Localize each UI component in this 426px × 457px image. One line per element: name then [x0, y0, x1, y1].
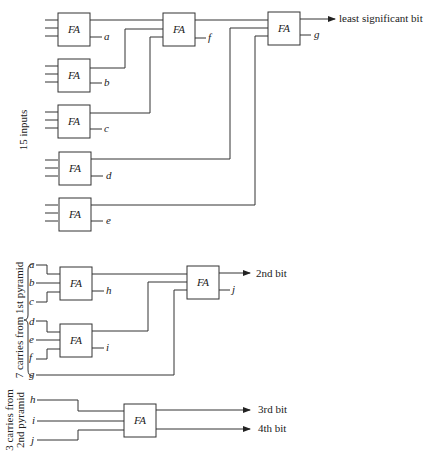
svg-text:e: e — [29, 333, 34, 345]
carry-e: e — [106, 214, 111, 226]
output-4th-bit: 4th bit — [258, 422, 286, 434]
fa-block-3: FA c — [45, 105, 109, 138]
carry-c: c — [104, 122, 109, 134]
side-label-15-inputs: 15 inputs — [17, 110, 29, 151]
full-adder-pyramid-diagram: 15 inputs FA a FA b FA — [0, 0, 426, 457]
svg-text:j: j — [230, 283, 235, 295]
svg-text:FA: FA — [68, 162, 81, 174]
svg-text:FA: FA — [67, 69, 80, 81]
svg-text:c: c — [29, 295, 34, 307]
svg-text:j: j — [29, 434, 34, 446]
svg-text:FA: FA — [277, 22, 290, 34]
fa-block-7: FA g — [268, 12, 320, 45]
svg-text:a: a — [29, 258, 35, 270]
svg-text:f: f — [29, 351, 34, 363]
output-lsb: least significant bit — [339, 12, 423, 24]
output-3rd-bit: 3rd bit — [258, 403, 287, 415]
section-2-pyramid: 7 carries from 1st pyramid a b c d e f g… — [13, 258, 287, 380]
carry-b: b — [104, 76, 110, 88]
svg-text:i: i — [106, 341, 109, 353]
svg-text:FA: FA — [133, 414, 146, 426]
svg-text:b: b — [29, 276, 35, 288]
carry-d: d — [106, 169, 112, 181]
carry-g: g — [314, 28, 320, 40]
section-3-adder: 3 carries from 2nd pyramid h i j FA 3rd … — [3, 389, 287, 451]
side-label-7-carries: 7 carries from 1st pyramid — [13, 261, 25, 378]
fa-block-6: FA f — [163, 13, 213, 46]
svg-text:d: d — [29, 315, 35, 327]
fa-block-5: FA e — [45, 198, 111, 231]
section-1-pyramid: 15 inputs FA a FA b FA — [17, 12, 423, 231]
fa-block-2: FA b — [45, 59, 110, 92]
svg-text:FA: FA — [67, 115, 80, 127]
svg-text:FA: FA — [172, 23, 185, 35]
fa-block-4: FA d — [45, 152, 112, 185]
svg-text:FA: FA — [196, 276, 209, 288]
svg-text:h: h — [30, 393, 36, 405]
svg-text:g: g — [29, 368, 35, 380]
svg-text:FA: FA — [67, 23, 80, 35]
svg-text:2nd pyramid: 2nd pyramid — [14, 392, 26, 448]
svg-text:h: h — [106, 284, 112, 296]
fa-block-1: FA a — [45, 13, 110, 46]
svg-text:FA: FA — [69, 277, 82, 289]
carry-f: f — [208, 31, 213, 43]
svg-text:FA: FA — [68, 208, 81, 220]
output-2nd-bit: 2nd bit — [256, 267, 287, 279]
carry-a: a — [104, 30, 110, 42]
svg-text:FA: FA — [69, 334, 82, 346]
svg-text:i: i — [32, 414, 35, 426]
